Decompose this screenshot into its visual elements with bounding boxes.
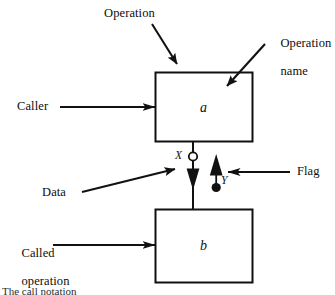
node-label-y: Y (221, 174, 227, 186)
data-port-circle-icon (189, 152, 197, 160)
box-a-letter: a (200, 100, 207, 116)
figure-caption: The call notation (2, 285, 152, 295)
flag-port-circle-icon (212, 183, 221, 192)
data-port-x (187, 152, 200, 190)
label-called-operation: Called operation (15, 232, 70, 288)
box-b-letter: b (200, 238, 207, 254)
flag-port-arrowhead-icon (210, 154, 223, 176)
node-label-x: X (175, 149, 182, 161)
label-called-operation-line1: Called (21, 246, 54, 260)
label-operation: Operation (104, 7, 155, 21)
label-data: Data (42, 186, 66, 200)
label-operation-name-line1: Operation (280, 36, 331, 50)
label-flag: Flag (297, 165, 320, 179)
label-caller: Caller (17, 100, 48, 114)
data-port-arrowhead-icon (187, 169, 200, 191)
label-operation-name: Operation name (274, 22, 331, 78)
label-operation-name-line2: name (280, 64, 307, 78)
data-leader-arrow (82, 169, 175, 192)
operation-leader-arrow (152, 24, 177, 64)
